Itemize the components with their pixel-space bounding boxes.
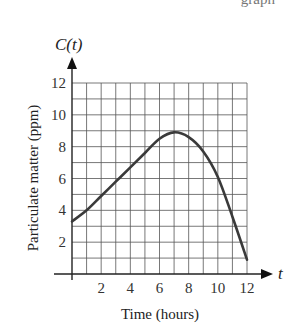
function-label: C(t) <box>55 35 83 54</box>
x-tick-label: 4 <box>127 280 135 296</box>
y-tick-label: 2 <box>59 234 67 250</box>
y-tick-label: 6 <box>59 171 67 187</box>
y-tick-label: 8 <box>59 139 67 155</box>
y-axis-title: Particulate matter (ppm) <box>25 105 42 252</box>
x-axis-arrow-icon <box>261 269 273 279</box>
x-tick-label: 6 <box>156 280 164 296</box>
y-tick-label: 10 <box>51 107 66 123</box>
chart: 24681012 24681012 C(t) t Time (hours) Pa… <box>0 0 305 327</box>
y-tick-labels: 24681012 <box>51 75 67 250</box>
x-axis-title: Time (hours) <box>121 306 199 323</box>
x-tick-label: 10 <box>210 280 225 296</box>
y-tick-label: 4 <box>59 202 67 218</box>
x-axis-symbol: t <box>278 264 284 283</box>
y-tick-label: 12 <box>51 75 66 91</box>
x-tick-labels: 24681012 <box>97 280 254 296</box>
x-tick-label: 8 <box>185 280 193 296</box>
y-axis-arrow-icon <box>67 57 77 69</box>
x-tick-label: 12 <box>240 280 255 296</box>
x-tick-label: 2 <box>97 280 105 296</box>
grid-lines <box>72 83 247 274</box>
